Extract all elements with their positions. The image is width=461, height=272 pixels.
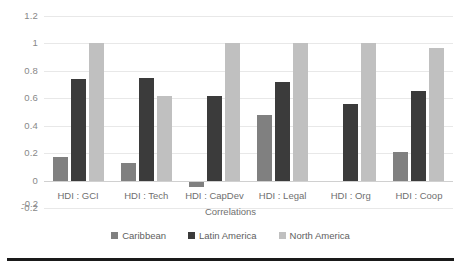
bar-group-bars bbox=[180, 16, 248, 208]
chart-legend: CaribbeanLatin AmericaNorth America bbox=[0, 230, 461, 241]
bar-slot bbox=[293, 16, 308, 208]
bar-north-america[interactable] bbox=[89, 43, 104, 180]
bar-slot bbox=[393, 16, 408, 208]
x-axis-category-labels: HDI : GCIHDI : TechHDI : CapDevHDI : Leg… bbox=[44, 188, 453, 204]
legend-swatch-icon bbox=[111, 232, 118, 239]
legend-item-north-america[interactable]: North America bbox=[279, 230, 350, 241]
bar-group-bars bbox=[317, 16, 385, 208]
bar-group bbox=[385, 16, 453, 208]
legend-label: Latin America bbox=[199, 230, 257, 241]
bar-group-bars bbox=[44, 16, 112, 208]
bar-groups bbox=[44, 16, 453, 208]
plot-area bbox=[44, 16, 453, 208]
bar-group bbox=[112, 16, 180, 208]
bar-latin-america[interactable] bbox=[71, 79, 86, 180]
bar-latin-america[interactable] bbox=[207, 96, 222, 181]
x-axis-category-label: HDI : Coop bbox=[385, 188, 453, 204]
bar-caribbean[interactable] bbox=[393, 152, 408, 181]
bar-group-bars bbox=[112, 16, 180, 208]
bar-group bbox=[180, 16, 248, 208]
bar-slot bbox=[189, 16, 204, 208]
bar-group bbox=[44, 16, 112, 208]
y-axis-tick-label: 1 bbox=[8, 38, 38, 48]
bar-slot bbox=[89, 16, 104, 208]
y-axis-tick-label: 0 bbox=[8, 176, 38, 186]
bar-latin-america[interactable] bbox=[343, 104, 358, 181]
bar-slot bbox=[275, 16, 290, 208]
bar-caribbean[interactable] bbox=[53, 157, 68, 180]
bar-north-america[interactable] bbox=[157, 96, 172, 181]
bar-caribbean[interactable] bbox=[257, 115, 272, 181]
y-axis-tick-label: 1.2 bbox=[8, 11, 38, 21]
bar-slot bbox=[429, 16, 444, 208]
legend-item-latin-america[interactable]: Latin America bbox=[188, 230, 257, 241]
bar-slot bbox=[325, 16, 340, 208]
y-axis-tick-label: 0.4 bbox=[8, 121, 38, 131]
bar-north-america[interactable] bbox=[429, 48, 444, 181]
bar-slot bbox=[71, 16, 86, 208]
bar-group-bars bbox=[249, 16, 317, 208]
legend-item-caribbean[interactable]: Caribbean bbox=[111, 230, 166, 241]
bar-slot bbox=[411, 16, 426, 208]
bar-slot bbox=[121, 16, 136, 208]
bar-latin-america[interactable] bbox=[139, 78, 154, 181]
x-axis-category-label: HDI : Org bbox=[317, 188, 385, 204]
y-axis-labels: 1.210.80.60.40.20-0.2 bbox=[4, 16, 38, 208]
x-axis-category-label: HDI : Legal bbox=[249, 188, 317, 204]
legend-swatch-icon bbox=[188, 232, 195, 239]
legend-label: North America bbox=[290, 230, 350, 241]
bar-north-america[interactable] bbox=[225, 43, 240, 180]
bar-north-america[interactable] bbox=[361, 43, 376, 180]
bar-slot bbox=[207, 16, 222, 208]
legend-label: Caribbean bbox=[122, 230, 166, 241]
bar-slot bbox=[257, 16, 272, 208]
y-axis-tick-label: 0.2 bbox=[8, 148, 38, 158]
bar-slot bbox=[157, 16, 172, 208]
bar-slot bbox=[343, 16, 358, 208]
bar-slot bbox=[139, 16, 154, 208]
bar-north-america[interactable] bbox=[293, 43, 308, 180]
x-axis-title: Correlations bbox=[0, 206, 461, 217]
legend-swatch-icon bbox=[279, 232, 286, 239]
y-axis-tick-label: 0.6 bbox=[8, 93, 38, 103]
bottom-divider bbox=[7, 258, 454, 261]
bar-slot bbox=[53, 16, 68, 208]
bar-slot bbox=[361, 16, 376, 208]
y-axis-tick-label: 0.8 bbox=[8, 66, 38, 76]
chart-container: 1.210.80.60.40.20-0.2 HDI : GCIHDI : Tec… bbox=[0, 0, 461, 272]
bar-group bbox=[249, 16, 317, 208]
x-axis-category-label: HDI : GCI bbox=[44, 188, 112, 204]
bar-caribbean[interactable] bbox=[121, 163, 136, 181]
bar-latin-america[interactable] bbox=[411, 91, 426, 180]
x-axis-category-label: HDI : Tech bbox=[112, 188, 180, 204]
zero-axis-line bbox=[44, 181, 453, 182]
bar-caribbean[interactable] bbox=[189, 181, 204, 188]
x-axis-category-label: HDI : CapDev bbox=[180, 188, 248, 204]
bar-latin-america[interactable] bbox=[275, 82, 290, 181]
bar-slot bbox=[225, 16, 240, 208]
bar-group bbox=[317, 16, 385, 208]
bar-group-bars bbox=[385, 16, 453, 208]
